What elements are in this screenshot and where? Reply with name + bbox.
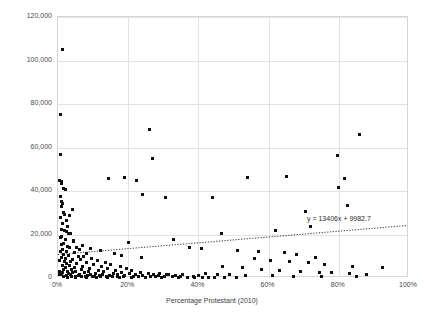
scatter-point [197, 274, 200, 277]
scatter-point [337, 186, 340, 189]
y-tick-label: 60,000 [0, 143, 52, 151]
scatter-point [59, 113, 62, 116]
scatter-point [236, 249, 239, 252]
scatter-point [68, 264, 71, 267]
scatter-point [58, 259, 61, 262]
scatter-point [253, 257, 256, 260]
scatter-point [109, 263, 112, 266]
scatter-point [221, 265, 224, 268]
scatter-point [90, 257, 93, 260]
trendline-equation-label: y = 13406x + 9982.7 [307, 215, 371, 222]
scatter-point [299, 270, 302, 273]
x-tick-label: 20% [107, 281, 147, 289]
scatter-point [244, 274, 247, 277]
scatter-point [135, 179, 138, 182]
x-tick-label: 100% [388, 281, 424, 289]
scatter-point [141, 193, 144, 196]
scatter-point [343, 177, 346, 180]
scatter-point [283, 251, 286, 254]
x-tick-label: 80% [318, 281, 358, 289]
scatter-point [69, 260, 72, 263]
scatter-point [122, 275, 125, 278]
scatter-point [158, 272, 161, 275]
scatter-point [73, 251, 76, 254]
scatter-point [123, 176, 126, 179]
scatter-point [304, 210, 307, 213]
scatter-point [107, 177, 110, 180]
scatter-point [144, 276, 147, 279]
scatter-point [130, 276, 133, 279]
gridline-vertical [198, 17, 199, 276]
scatter-point [292, 275, 295, 278]
scatter-point [59, 236, 62, 239]
scatter-point [257, 250, 260, 253]
y-tick-label: 20,000 [0, 230, 52, 238]
scatter-point [79, 258, 82, 261]
scatter-point [127, 241, 130, 244]
scatter-point [63, 213, 66, 216]
scatter-point [120, 254, 123, 257]
scatter-point [348, 272, 351, 275]
scatter-point [164, 196, 167, 199]
gridline-horizontal [58, 61, 407, 62]
scatter-point [260, 268, 263, 271]
scatter-point [211, 196, 214, 199]
gridline-horizontal [58, 235, 407, 236]
gridline-vertical [128, 17, 129, 276]
scatter-point [70, 275, 73, 278]
scatter-point [118, 276, 121, 279]
scatter-point [61, 222, 64, 225]
y-tick-label: 120,000 [0, 12, 52, 20]
plot-area [57, 16, 408, 277]
scatter-point [80, 275, 83, 278]
scatter-point [295, 253, 298, 256]
scatter-point [204, 272, 207, 275]
scatter-point [346, 204, 349, 207]
scatter-point [186, 276, 189, 279]
gridline-horizontal [58, 148, 407, 149]
scatter-point [99, 275, 102, 278]
scatter-point [62, 242, 65, 245]
scatter-point [61, 48, 64, 51]
scatter-point [320, 275, 323, 278]
scatter-point [207, 276, 210, 279]
scatter-point [74, 270, 77, 273]
scatter-point [59, 153, 62, 156]
scatter-point [171, 275, 174, 278]
scatter-point [128, 272, 131, 275]
scatter-point [92, 263, 95, 266]
scatter-point [85, 276, 88, 279]
scatter-point [167, 273, 170, 276]
scatter-point [75, 262, 78, 265]
scatter-point [160, 276, 163, 279]
x-tick-label: 60% [248, 281, 288, 289]
scatter-point [358, 133, 361, 136]
scatter-point [68, 214, 71, 217]
scatter-point [59, 195, 62, 198]
scatter-point [106, 276, 109, 279]
scatter-point [355, 275, 358, 278]
scatter-point [89, 247, 92, 250]
scatter-point [381, 266, 384, 269]
x-tick-label: 0% [37, 281, 77, 289]
scatter-point [81, 244, 84, 247]
scatter-point [149, 275, 152, 278]
scatter-point [132, 275, 135, 278]
scatter-point [309, 225, 312, 228]
scatter-point [140, 256, 143, 259]
scatter-point [60, 243, 63, 246]
scatter-point [119, 265, 122, 268]
scatter-point [67, 254, 70, 257]
scatter-point [271, 274, 274, 277]
scatter-point [177, 276, 180, 279]
scatter-point [69, 232, 72, 235]
scatter-point [351, 265, 354, 268]
scatter-point [172, 238, 175, 241]
y-tick-label: 40,000 [0, 186, 52, 194]
scatter-point [66, 225, 69, 228]
scatter-point [85, 252, 88, 255]
scatter-point [220, 232, 223, 235]
scatter-point [181, 273, 184, 276]
scatter-point [163, 275, 166, 278]
gridline-vertical [269, 17, 270, 276]
